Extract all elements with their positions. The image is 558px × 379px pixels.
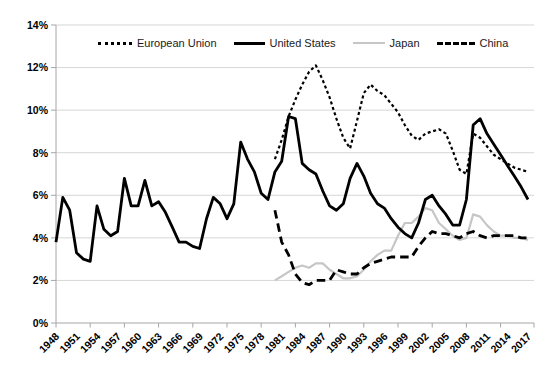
x-tick-label: 1951: [57, 330, 82, 355]
series-european-union-line: [275, 65, 528, 174]
dashed-line-marker-icon: [437, 42, 475, 45]
y-tick-label: 12%: [27, 61, 49, 73]
x-tick-label: 1972: [201, 330, 226, 355]
x-tick-label: 2008: [447, 330, 472, 355]
x-tick-label: 1990: [324, 330, 349, 355]
x-tick-label: 1954: [77, 330, 102, 355]
x-tick-label: 1987: [303, 330, 328, 355]
x-tick-label: 1960: [118, 330, 143, 355]
x-tick-label: 1963: [139, 330, 164, 355]
legend-item-china: China: [437, 37, 509, 49]
legend-label-japan: Japan: [390, 37, 420, 49]
gray-line-marker-icon: [353, 42, 385, 44]
solid-line-marker-icon: [234, 42, 265, 45]
series-japan-line: [275, 208, 528, 280]
y-tick-label: 2%: [33, 274, 49, 286]
y-tick-label: 8%: [33, 147, 49, 159]
x-tick-label: 1966: [160, 330, 185, 355]
axes: [51, 25, 534, 328]
dotted-line-marker-icon: [98, 42, 132, 45]
x-tick-label: 2005: [426, 330, 451, 355]
x-tick-label: 2011: [468, 330, 493, 355]
x-tick-label: 1984: [283, 330, 308, 355]
series-china-line: [275, 210, 528, 285]
y-tick-label: 4%: [33, 232, 49, 244]
x-axis-labels: 1948195119541957196019631966196919721975…: [36, 330, 533, 355]
unemployment-rate-line-chart: 0%2%4%6%8%10%12%14%194819511954195719601…: [0, 0, 558, 379]
legend-label-european-union: European Union: [137, 37, 217, 49]
x-tick-label: 2002: [406, 330, 431, 355]
x-tick-label: 1993: [344, 330, 369, 355]
chart-legend: European Union United States Japan China: [98, 36, 508, 50]
x-tick-label: 2014: [488, 330, 513, 355]
x-tick-label: 1957: [98, 330, 123, 355]
y-tick-label: 14%: [27, 19, 49, 31]
x-tick-label: 2017: [508, 330, 533, 355]
x-tick-label: 1975: [221, 330, 246, 355]
legend-item-united-states: United States: [234, 37, 336, 49]
y-axis-labels: 0%2%4%6%8%10%12%14%: [27, 19, 49, 329]
y-tick-label: 10%: [27, 104, 49, 116]
x-tick-label: 1969: [180, 330, 205, 355]
y-tick-label: 6%: [33, 189, 49, 201]
y-tick-label: 0%: [33, 317, 49, 329]
legend-item-japan: Japan: [353, 37, 420, 49]
x-tick-label: 1978: [242, 330, 267, 355]
legend-label-united-states: United States: [270, 37, 336, 49]
x-tick-label: 1996: [365, 330, 390, 355]
legend-label-china: China: [480, 37, 509, 49]
x-tick-label: 1999: [385, 330, 410, 355]
legend-item-european-union: European Union: [98, 37, 217, 49]
x-tick-label: 1981: [262, 330, 287, 355]
plot-area: 0%2%4%6%8%10%12%14%194819511954195719601…: [0, 0, 558, 379]
gridlines: [56, 25, 534, 280]
x-tick-label: 1948: [36, 330, 61, 355]
